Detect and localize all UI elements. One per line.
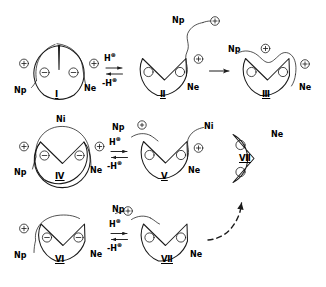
structure-7-np-label: Np [112, 206, 124, 214]
structure-1-roman-label: Ⅰ [55, 90, 58, 99]
structure-7-product-ne-label: Ne [271, 131, 283, 139]
structure-5-np-label: Np [112, 124, 124, 132]
structure-6-np-label: Np [14, 252, 26, 260]
structure-3-roman-label: Ⅲ [262, 90, 270, 99]
structure-5-ni-label: Ni [204, 123, 213, 131]
structure-5-np-plus-charge [137, 120, 147, 130]
eq-row3-arrows [111, 234, 128, 240]
structure-4-roman-label: Ⅳ [55, 172, 65, 181]
plus-circle-icon [137, 120, 147, 130]
structure-7-ne-label: Ne [190, 251, 202, 259]
structure-2-body [140, 17, 219, 96]
structure-5-roman-label: Ⅴ [161, 172, 168, 181]
structure-4-np-label: Np [14, 169, 26, 177]
eq-row1-bottom-reagent: -H⊕ [102, 77, 117, 88]
structure-1-ne-label: Ne [84, 85, 96, 93]
structure-6-ne-label: Ne [90, 251, 102, 259]
structure-3-np-label: Np [228, 46, 240, 54]
structure-6-roman-label: Ⅵ [55, 255, 65, 264]
structure-1-np-label: Np [14, 87, 26, 95]
eq-row3-top-reagent: H⊕ [109, 218, 121, 229]
eq-row1-top-reagent: H⊕ [104, 52, 116, 63]
eq-row2-bottom-reagent: -H⊕ [107, 160, 122, 171]
structure-2-np-label: Np [172, 17, 184, 25]
eq-row1-arrows [106, 68, 123, 74]
eq-row2-top-reagent: H⊕ [109, 136, 121, 147]
eq-row3-bottom-reagent: -H⊕ [107, 242, 122, 253]
arrow-dashed-up-line [208, 203, 242, 240]
structure-4-ne-label: Ne [90, 167, 102, 175]
structure-3-ne-label: Ne [299, 84, 311, 92]
structure-2-roman-label: Ⅱ [160, 90, 166, 99]
structure-5-ne-label: Ne [188, 167, 200, 175]
structure-2-ne-label: Ne [187, 84, 199, 92]
structure-4-ni-label: Ni [56, 116, 65, 124]
eq-row2-arrows [111, 152, 128, 158]
scheme-drawing [0, 0, 326, 287]
structure-6-body [20, 215, 85, 261]
structure-7-roman-label: Ⅶ [161, 255, 173, 264]
structure-7-product-roman-label: Ⅶ [239, 154, 251, 163]
reaction-scheme-figure: Np Ne Ⅰ H⊕ -H⊕ Np Ne Ⅱ Np Ne Ⅲ Ni Np Ne … [0, 0, 326, 287]
